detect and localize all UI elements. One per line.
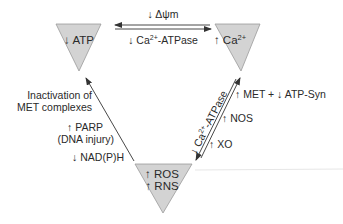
- node-calcium-text: ↑ Ca: [214, 34, 238, 46]
- edge-left-label-nadph: ↓ NAD(P)H: [72, 151, 124, 163]
- node-rns-label: ↑ RNS: [145, 180, 179, 192]
- edge-right-label-met: ↑ MET + ↓ ATP-Syn: [235, 88, 326, 100]
- faint-rule: [195, 169, 343, 170]
- edge-left-label-inactivation: Inactivation of: [27, 89, 92, 101]
- label-prefix: ↓ Ca: [128, 34, 150, 46]
- node-calcium-sup: 2+: [238, 33, 247, 42]
- edge-right-label-nos: ↑ NOS: [222, 112, 253, 124]
- edge-left-label-met-complexes: MET complexes: [17, 101, 92, 113]
- label-suffix: -ATPase: [158, 34, 198, 46]
- label-sup: 2+: [150, 34, 158, 41]
- triangle-node-shape: [56, 24, 101, 71]
- edge-left-label-parp: ↑ PARP: [67, 121, 103, 133]
- edge-top-label-below: ↓ Ca2+-ATPase: [128, 34, 198, 46]
- edge-top: ↓ Δψm ↓ Ca2+-ATPase: [115, 8, 211, 46]
- edge-right-label-xo: ↑ XO: [209, 138, 232, 150]
- edge-left-label-dna-injury: (DNA injury): [57, 133, 114, 145]
- edge-right: ↓ Ca2+-ATPase ↑ MET + ↓ ATP-Syn ↑ NOS ↑ …: [187, 78, 326, 160]
- node-atp-label: ↓ ATP: [64, 34, 94, 46]
- arrow-to-atp-diag: [86, 78, 134, 161]
- edge-left: Inactivation of MET complexes ↑ PARP (DN…: [17, 78, 134, 163]
- diagram-canvas: ↓ ATP ↑ Ca2+ ↑ ROS ↑ RNS ↓ Δψm ↓ Ca2+-AT…: [0, 0, 343, 224]
- triangle-node-shape: [215, 24, 260, 71]
- edge-top-label-above: ↓ Δψm: [148, 8, 179, 20]
- node-atp: ↓ ATP: [56, 24, 101, 71]
- node-ros-label: ↑ ROS: [145, 168, 179, 180]
- node-ros-rns: ↑ ROS ↑ RNS: [135, 164, 192, 213]
- node-calcium: ↑ Ca2+: [214, 24, 260, 71]
